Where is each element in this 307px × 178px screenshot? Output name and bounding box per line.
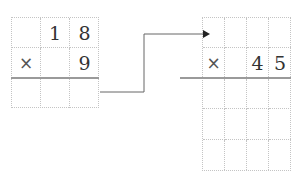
connector-arrow-icon	[0, 0, 307, 178]
